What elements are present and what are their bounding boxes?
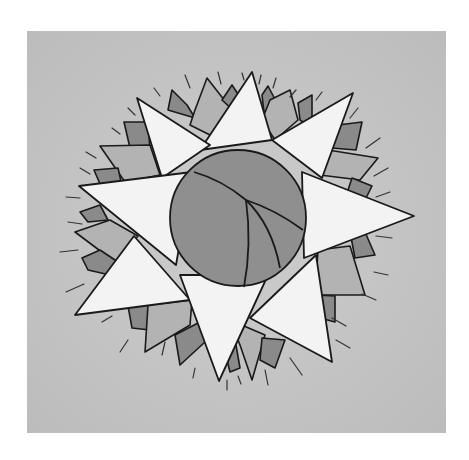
central-circle [170, 150, 306, 287]
sun-mandala-drawing [0, 0, 469, 460]
